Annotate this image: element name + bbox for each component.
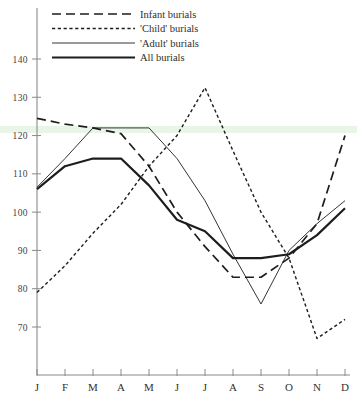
seasonality-line-chart: 140130120110100908070 JFMAMJJASOND Infan… [0, 0, 357, 407]
chart-canvas: 140130120110100908070 JFMAMJJASOND Infan… [0, 0, 357, 407]
x-tick-label: J [35, 381, 40, 393]
x-tick-label: F [62, 381, 68, 393]
y-tick-label: 140 [13, 55, 28, 65]
y-tick-label: 110 [13, 169, 28, 179]
y-tick-label: 80 [18, 284, 28, 294]
x-tick-label: N [313, 381, 321, 393]
x-tick-label: J [175, 381, 180, 393]
x-tick-label: M [144, 381, 154, 393]
x-tick-label: M [88, 381, 98, 393]
legend-label-1: Infant burials [140, 9, 196, 20]
legend-label-3: 'Adult' burials [140, 38, 199, 49]
y-tick-label: 130 [13, 93, 28, 103]
y-tick-label: 120 [13, 131, 28, 141]
x-tick-label: J [203, 381, 208, 393]
data-series-group [37, 88, 345, 339]
y-tick-label: 100 [13, 208, 28, 218]
x-tick-label: O [285, 381, 293, 393]
series-line-infant-burials [37, 118, 345, 277]
axes [37, 8, 350, 375]
x-axis-ticks: JFMAMJJASOND [35, 369, 349, 393]
series-line-all-burials [37, 159, 345, 259]
x-tick-label: S [258, 381, 264, 393]
legend-label-2: 'Child' burials [140, 23, 198, 34]
legend-label-4: All burials [140, 52, 185, 63]
x-tick-label: A [117, 381, 125, 393]
y-tick-label: 70 [18, 323, 28, 333]
chart-legend: Infant burials'Child' burials'Adult' bur… [52, 9, 199, 64]
y-tick-label: 90 [18, 246, 28, 256]
x-tick-label: D [341, 381, 349, 393]
series-line-adult-burials [37, 128, 345, 304]
x-tick-label: A [229, 381, 237, 393]
series-line-child-burials [37, 88, 345, 339]
